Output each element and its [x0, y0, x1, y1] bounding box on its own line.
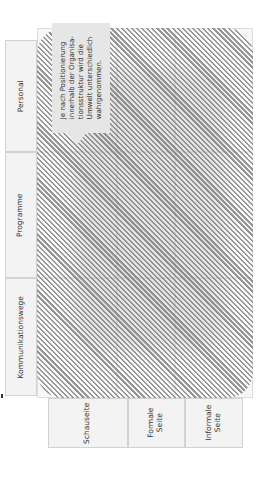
callout-line: tionsstruktur wird die: [76, 37, 85, 120]
callout-text: Je nach Positionierung innerhalb der Org…: [58, 37, 103, 120]
row-header-label: Schauseite: [84, 402, 93, 443]
column-header-label: Kommunikationswege: [17, 296, 26, 379]
callout-line: Je nach Positionierung: [58, 37, 67, 120]
row-header-label: Informale Seite: [205, 405, 222, 441]
column-header-label: Programme: [17, 193, 26, 237]
callout-line: innerhalb der Organisa-: [67, 37, 76, 120]
row-header-label: Formale Seite: [148, 408, 165, 438]
callout-line: wahrgenommen.: [95, 37, 104, 120]
row-header-informale-seite: Informale Seite: [185, 398, 243, 448]
callout-line: Umwelt unterschiedlich: [86, 37, 95, 120]
column-header-programme: Programme: [5, 152, 37, 278]
callout-box: Je nach Positionierung innerhalb der Org…: [52, 23, 110, 133]
row-header-schauseite: Schauseite: [48, 398, 128, 448]
column-header-kommunikationswege: Kommunikationswege: [5, 278, 37, 396]
callout-pointer-icon: [68, 133, 86, 145]
column-header-label: Personal: [17, 80, 26, 112]
organization-perspective-diagram: Personal Programme Kommunikationswege Sc…: [0, 0, 265, 482]
row-header-formale-seite: Formale Seite: [128, 398, 185, 448]
tick-mark: [1, 394, 3, 398]
column-header-personal: Personal: [5, 40, 37, 152]
